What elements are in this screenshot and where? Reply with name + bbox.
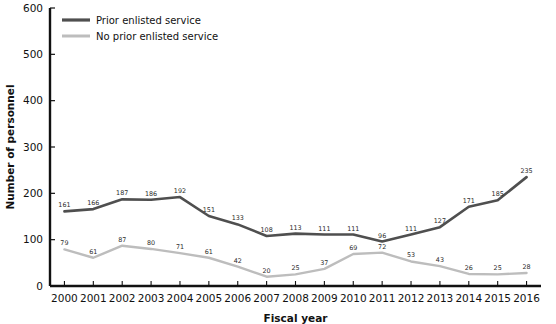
x-tick-label: 2016 <box>513 292 540 304</box>
x-tick-label: 2005 <box>195 292 222 304</box>
x-tick-label: 2004 <box>167 292 194 304</box>
data-label: 25 <box>291 264 299 272</box>
data-label: 80 <box>147 239 155 247</box>
data-label: 69 <box>349 244 357 252</box>
data-label: 20 <box>263 267 271 275</box>
y-tick-label: 400 <box>23 94 43 106</box>
chart-container: 0100200300400500600200020012002200320042… <box>0 0 556 324</box>
y-tick-label: 100 <box>23 233 43 245</box>
data-label: 71 <box>176 243 184 251</box>
series-line-0 <box>64 177 526 241</box>
data-label: 185 <box>492 190 504 198</box>
legend: Prior enlisted serviceNo prior enlisted … <box>62 15 218 42</box>
x-tick-label: 2001 <box>80 292 107 304</box>
data-label: 96 <box>378 232 386 240</box>
x-tick-label: 2000 <box>51 292 78 304</box>
x-axis-title: Fiscal year <box>264 312 329 324</box>
x-tick-label: 2015 <box>484 292 511 304</box>
data-label: 161 <box>58 201 70 209</box>
data-label: 37 <box>320 259 328 267</box>
data-label: 187 <box>116 189 128 197</box>
data-label: 53 <box>407 251 415 259</box>
data-label: 192 <box>174 187 186 195</box>
x-tick-label: 2003 <box>138 292 165 304</box>
x-tick-label: 2006 <box>224 292 251 304</box>
data-label: 111 <box>318 225 330 233</box>
data-label: 61 <box>89 248 97 256</box>
legend-label-0: Prior enlisted service <box>96 15 201 26</box>
x-tick-label: 2012 <box>398 292 425 304</box>
x-tick-label: 2008 <box>282 292 309 304</box>
x-tick-label: 2009 <box>311 292 338 304</box>
data-label: 72 <box>378 243 386 251</box>
y-tick-label: 200 <box>23 187 43 199</box>
data-label: 127 <box>434 217 446 225</box>
x-tick-label: 2010 <box>340 292 367 304</box>
data-label: 87 <box>118 236 126 244</box>
data-label: 43 <box>436 256 444 264</box>
data-label: 113 <box>289 224 301 232</box>
data-label: 186 <box>145 190 157 198</box>
x-tick-label: 2002 <box>109 292 136 304</box>
data-label: 133 <box>232 214 244 222</box>
line-chart: 0100200300400500600200020012002200320042… <box>0 0 556 324</box>
data-label: 111 <box>347 225 359 233</box>
data-label: 108 <box>261 226 273 234</box>
data-label: 235 <box>520 167 532 175</box>
data-label: 25 <box>494 264 502 272</box>
data-label: 166 <box>87 199 99 207</box>
legend-label-1: No prior enlisted service <box>96 31 218 42</box>
x-tick-label: 2007 <box>253 292 280 304</box>
y-tick-label: 300 <box>23 141 43 153</box>
data-label: 151 <box>203 206 215 214</box>
y-tick-label: 500 <box>23 48 43 60</box>
data-label: 61 <box>205 248 213 256</box>
data-label: 42 <box>234 257 242 265</box>
y-axis-title: Number of personnel <box>4 84 16 209</box>
x-tick-label: 2014 <box>455 292 482 304</box>
data-label: 79 <box>60 239 68 247</box>
data-label: 26 <box>465 264 473 272</box>
data-label: 28 <box>522 263 530 271</box>
data-label: 111 <box>405 225 417 233</box>
data-label: 171 <box>463 197 475 205</box>
x-tick-label: 2013 <box>427 292 454 304</box>
x-tick-label: 2011 <box>369 292 396 304</box>
y-tick-label: 600 <box>23 2 43 14</box>
y-tick-label: 0 <box>36 280 43 292</box>
